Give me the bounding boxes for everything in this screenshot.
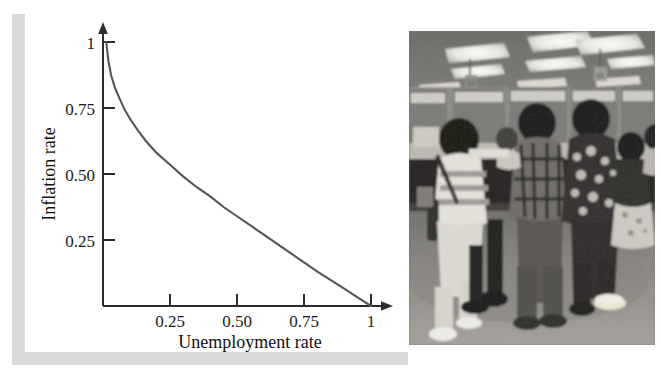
panel-shadow-bottom <box>12 352 408 365</box>
figure-root: 1 0.75 0.50 0.25 0.25 0.50 0.75 1 Unempl… <box>0 0 661 387</box>
unemployment-office-queue-photo: 12 11 <box>409 31 655 345</box>
photo-grain-overlay <box>409 31 655 345</box>
y-tick-label-075: 0.75 <box>65 100 95 119</box>
x-tick-label-050: 0.50 <box>222 312 252 331</box>
photo-canvas: 12 11 <box>409 31 655 345</box>
x-tick-label-1: 1 <box>367 312 376 331</box>
chart-canvas: 1 0.75 0.50 0.25 0.25 0.50 0.75 1 Unempl… <box>25 14 408 352</box>
y-tick-label-1: 1 <box>87 34 96 53</box>
x-tick-label-075: 0.75 <box>289 312 319 331</box>
phillips-curve-series <box>106 42 371 306</box>
x-axis-arrow-icon <box>381 301 393 311</box>
y-axis-title: Inflation rate <box>39 127 59 220</box>
x-axis-title: Unemployment rate <box>178 332 321 352</box>
y-tick-label-050: 0.50 <box>65 166 95 185</box>
y-tick-label-025: 0.25 <box>65 232 95 251</box>
y-axis-arrow-icon <box>98 22 108 34</box>
panel-shadow-left <box>12 14 25 352</box>
x-tick-label-025: 0.25 <box>155 312 185 331</box>
phillips-curve-chart: 1 0.75 0.50 0.25 0.25 0.50 0.75 1 Unempl… <box>25 14 408 352</box>
